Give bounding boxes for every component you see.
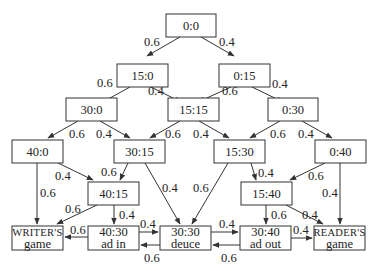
state-node-wg: WRITER'Sgame — [12, 226, 63, 251]
edge-probability-label: 0.6 — [222, 84, 238, 98]
state-label-line: game — [24, 237, 52, 251]
edge-probability-label: 0.4 — [302, 208, 318, 222]
state-node-n4015: 40:15 — [88, 182, 139, 205]
edge-probability-label: 0.4 — [148, 84, 164, 98]
state-label-line: ad in — [101, 237, 126, 251]
state-node-n3015: 30:15 — [114, 140, 165, 163]
tennis-state-diagram: 0:015:00:1530:015:150:3040:030:1515:300:… — [0, 0, 376, 271]
state-label-line: game — [326, 237, 354, 251]
state-node-n300: 30:0 — [66, 98, 117, 121]
edge-probability-label: 0.6 — [221, 251, 237, 265]
state-node-adin: 40:30ad in — [88, 225, 139, 251]
edge-probability-label: 0.4 — [293, 223, 309, 237]
state-label-line: deuce — [171, 237, 201, 251]
edge-probability-label: 0.4 — [193, 127, 209, 141]
state-node-deuce: 30:30deuce — [160, 225, 211, 251]
state-node-rg: READER'Sgame — [313, 226, 365, 251]
edge-probability-label: 0.6 — [271, 208, 287, 222]
edge-probability-label: 0.4 — [119, 208, 135, 222]
edge-n3015-to-n4015 — [120, 163, 128, 180]
edge-probability-label: 0.6 — [193, 181, 209, 195]
edge-probability-label: 0.4 — [140, 217, 156, 231]
state-label: 40:0 — [26, 145, 48, 159]
edge-probability-label: 0.6 — [65, 202, 81, 216]
edge-probability-label: 0.6 — [69, 127, 85, 141]
state-label: 15:40 — [252, 187, 280, 201]
state-label: 0:40 — [329, 145, 351, 159]
edge-probability-label: 0.6 — [40, 186, 56, 200]
edge-probability-label: 0.4 — [322, 186, 338, 200]
state-label: 0:30 — [282, 103, 304, 117]
state-label: 40:15 — [99, 187, 127, 201]
edge-probability-label: 0.6 — [165, 127, 181, 141]
state-node-adout: 30:40ad out — [240, 225, 291, 251]
edge-probability-label: 0.4 — [219, 217, 235, 231]
edge-probability-label: 0.4 — [55, 169, 71, 183]
state-node-n400: 40:0 — [12, 140, 63, 163]
state-node-n00: 0:0 — [166, 14, 216, 37]
state-label: 15:0 — [131, 69, 153, 83]
edge-probability-label: 0.6 — [144, 251, 160, 265]
edge-probability-label: 0.4 — [219, 35, 235, 49]
state-label: 30:15 — [125, 145, 153, 159]
state-node-n040: 0:40 — [315, 140, 366, 163]
arrow-icon — [251, 163, 256, 180]
edge-probability-label: 0.4 — [96, 127, 112, 141]
state-label: 15:30 — [225, 145, 253, 159]
state-label-line: ad out — [250, 237, 281, 251]
state-node-n1540: 15:40 — [241, 182, 292, 205]
edge-probability-label: 0.6 — [308, 169, 324, 183]
edge-probability-label: 0.4 — [272, 77, 288, 91]
edge-n1530-to-n1540 — [251, 163, 256, 180]
state-node-n030: 0:30 — [268, 98, 318, 121]
edge-probability-label: 0.6 — [70, 223, 86, 237]
state-node-n1515: 15:15 — [168, 98, 219, 121]
edge-probability-label: 0.4 — [298, 127, 314, 141]
edge-probability-label: 0.6 — [144, 35, 160, 49]
state-label: 30:0 — [80, 103, 102, 117]
state-label: 0:0 — [183, 19, 199, 33]
edge-probability-label: 0.4 — [162, 181, 178, 195]
state-node-n1530: 15:30 — [214, 140, 265, 163]
state-label: 0:15 — [233, 69, 255, 83]
edge-probability-label: 0.4 — [258, 166, 274, 180]
edge-probability-label: 0.6 — [101, 165, 117, 179]
arrow-icon — [120, 163, 128, 180]
edges-layer — [37, 37, 340, 245]
edge-probability-label: 0.6 — [97, 76, 113, 90]
edge-probability-label: 0.6 — [270, 127, 286, 141]
state-label: 15:15 — [179, 103, 207, 117]
